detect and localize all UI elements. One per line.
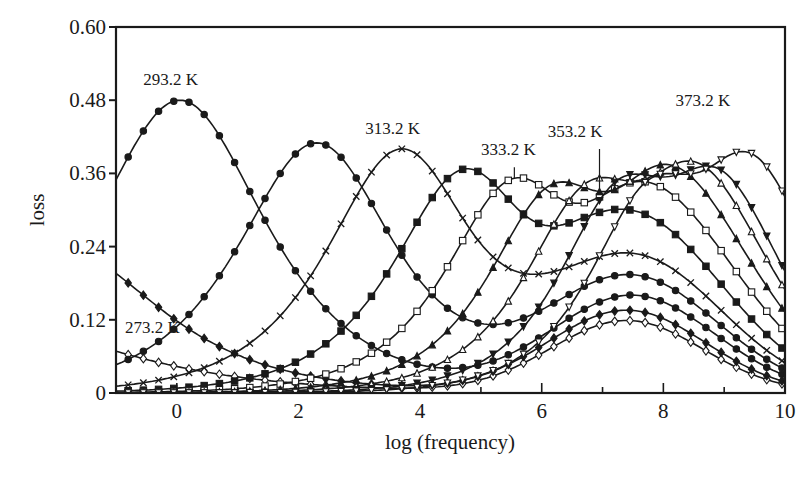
data-point [733, 346, 739, 352]
data-point [444, 264, 450, 270]
data-point [551, 342, 557, 350]
data-point [657, 183, 663, 189]
data-point [414, 308, 420, 314]
data-point [216, 273, 222, 279]
data-point [368, 342, 374, 348]
curve-label: 373.2 K [676, 91, 732, 110]
data-point [581, 317, 587, 325]
y-tick-label: 0.48 [69, 88, 106, 112]
x-tick-label: 10 [775, 399, 796, 423]
data-point [140, 354, 146, 362]
data-point [338, 328, 344, 334]
curve-label: 313.2 K [365, 119, 421, 138]
data-point [612, 317, 618, 325]
data-point [292, 359, 298, 365]
data-point [627, 306, 633, 314]
data-point [596, 277, 602, 283]
data-point [368, 200, 374, 206]
data-point [262, 371, 268, 377]
data-point [323, 341, 329, 347]
data-point [414, 274, 420, 280]
data-point [551, 300, 557, 306]
data-point [703, 310, 709, 316]
data-point [307, 141, 313, 147]
data-point [764, 331, 770, 337]
data-point [703, 339, 709, 347]
data-point [383, 227, 389, 233]
data-point [688, 329, 694, 337]
data-point [657, 279, 663, 285]
data-point [596, 321, 602, 329]
data-point [657, 219, 663, 225]
data-point [277, 244, 283, 250]
x-axis-label: log (frequency) [385, 430, 515, 454]
data-point [186, 99, 192, 105]
data-point [216, 380, 222, 386]
data-point [566, 315, 572, 321]
data-point [307, 288, 313, 294]
data-point [429, 194, 435, 200]
y-tick-label: 0.36 [69, 161, 106, 185]
data-point [338, 366, 344, 372]
series-373-2-K [116, 149, 785, 396]
data-point [353, 312, 359, 318]
data-point [581, 224, 587, 230]
data-point [262, 361, 268, 369]
data-point [307, 351, 313, 357]
data-point [733, 357, 739, 365]
data-point [672, 231, 678, 237]
x-tick-label: 4 [415, 399, 426, 423]
data-point [505, 196, 511, 202]
data-point [292, 369, 298, 377]
data-point [414, 361, 420, 367]
data-point [718, 247, 724, 253]
data-point [657, 323, 663, 331]
data-point [520, 344, 526, 350]
data-point [748, 356, 754, 362]
data-point [703, 263, 709, 269]
data-point [505, 177, 511, 183]
data-point [627, 271, 633, 277]
data-point [186, 311, 192, 317]
data-point [155, 108, 161, 114]
data-point [444, 365, 450, 371]
data-point [733, 335, 739, 341]
data-point [657, 313, 663, 321]
series-283-2-K [116, 273, 785, 389]
data-point [748, 228, 754, 234]
data-point [505, 352, 511, 358]
data-point [459, 166, 465, 172]
data-point [566, 325, 572, 333]
data-point [277, 170, 283, 176]
data-point [292, 151, 298, 157]
data-point [368, 293, 374, 299]
data-point [627, 292, 633, 298]
data-point [155, 303, 161, 311]
data-point [612, 294, 618, 300]
data-point [520, 315, 526, 321]
data-point [581, 326, 587, 334]
data-point [748, 289, 754, 295]
data-point [475, 212, 481, 218]
data-point [612, 206, 618, 212]
data-point [140, 128, 146, 134]
data-point [414, 219, 420, 225]
data-point [596, 299, 602, 305]
data-point [642, 308, 648, 316]
data-point [748, 205, 754, 211]
data-point [627, 316, 633, 324]
data-point [718, 348, 724, 356]
data-point [262, 217, 268, 223]
data-point [353, 359, 359, 365]
curve-label: 333.2 K [481, 140, 536, 159]
x-tick-label: 2 [293, 399, 304, 423]
y-tick-label: 0 [96, 381, 107, 405]
data-point [703, 227, 709, 233]
data-point [672, 330, 678, 338]
data-point [490, 190, 496, 196]
data-point [612, 272, 618, 278]
data-point [703, 324, 709, 330]
data-point [672, 305, 678, 311]
curve-label: 273.2 K [125, 318, 181, 337]
data-point [201, 294, 207, 300]
